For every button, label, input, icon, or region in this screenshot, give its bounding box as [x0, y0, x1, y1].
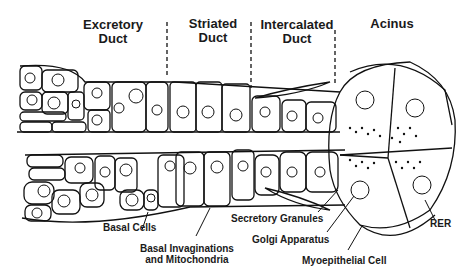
leader-rer — [425, 200, 435, 220]
acinus-drawing — [329, 62, 456, 235]
label-golgi-apparatus: Golgi Apparatus — [252, 234, 329, 245]
label-secretory-granules: Secretory Granules — [231, 213, 323, 224]
leader-myoepithelial — [348, 226, 362, 250]
secretory-granule-dots — [349, 127, 421, 169]
label-basal-invaginations-line2: and Mitochondria — [140, 254, 234, 265]
leader-basal-invaginations — [196, 208, 210, 236]
label-myoepithelial-cell: Myoepithelial Cell — [302, 255, 386, 266]
label-basal-invaginations-line1: Basal Invaginations — [140, 243, 234, 254]
histology-drawing — [0, 0, 465, 271]
label-basal-cells: Basal Cells — [103, 222, 156, 233]
label-rer: RER — [430, 218, 451, 229]
lower-duct-cells — [24, 150, 338, 221]
duct-acinus-diagram: Excretory Duct Striated Duct Intercalate… — [0, 0, 465, 271]
myoepithelial-lower — [265, 188, 330, 210]
upper-duct-cells — [20, 66, 336, 132]
nuclei — [25, 73, 431, 218]
label-basal-invaginations: Basal Invaginations and Mitochondria — [140, 243, 234, 265]
